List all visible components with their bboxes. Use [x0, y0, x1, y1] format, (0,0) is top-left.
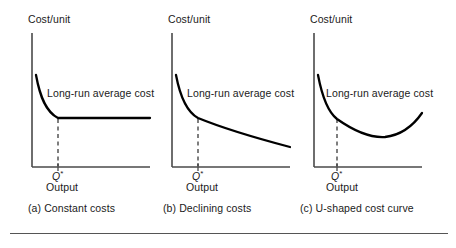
panel-u-shaped-cost-curve: Cost/unit Long-run average cost Q* Outpu… — [282, 0, 456, 220]
plot-area-u-shaped — [282, 0, 456, 200]
x-axis-label: Output — [186, 181, 218, 193]
cost-curves-figure: Cost/unit Long-run average cost Q* Outpu… — [0, 0, 456, 248]
x-axis-label: Output — [46, 181, 78, 193]
figure-divider-rule — [10, 233, 448, 234]
curve-label-lrac: Long-run average cost — [47, 87, 154, 99]
panel-caption: (a) Constant costs — [28, 202, 115, 214]
long-run-average-cost-curve — [176, 75, 290, 147]
panel-declining-costs: Cost/unit Long-run average cost Q* Outpu… — [140, 0, 292, 220]
curve-label-lrac: Long-run average cost — [326, 87, 433, 99]
plot-area-declining — [140, 0, 292, 200]
curve-label-lrac: Long-run average cost — [187, 87, 294, 99]
long-run-average-cost-curve — [318, 75, 422, 137]
panel-constant-costs: Cost/unit Long-run average cost Q* Outpu… — [0, 0, 152, 220]
panel-caption: (b) Declining costs — [163, 202, 251, 214]
x-axis-label: Output — [326, 181, 358, 193]
panel-caption: (c) U-shaped cost curve — [300, 202, 414, 214]
plot-area-constant — [0, 0, 152, 200]
